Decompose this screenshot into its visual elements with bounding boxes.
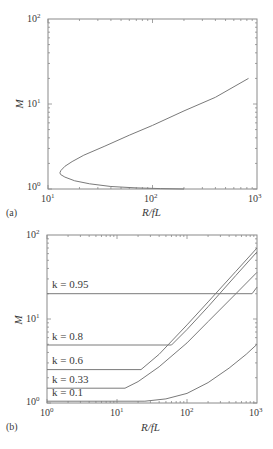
curve-label-k-0.33: k = 0.33: [52, 373, 88, 385]
chart-panel-b: 102 101 100 100 101 102 103 R/fL M (b) k…: [0, 225, 273, 449]
x-tick-label-b-0: 100: [40, 406, 54, 418]
plot-frame: [48, 19, 257, 189]
y-tick-label-a-0: 100: [27, 180, 41, 192]
x-tick-label-a-0: 101: [41, 192, 55, 204]
curve-label-k-0.1: k = 0.1: [52, 386, 83, 398]
x-tick-label-b-1: 101: [110, 406, 124, 418]
curve-label-k-0.8: k = 0.8: [52, 330, 83, 342]
series-line-k-0.6: [47, 248, 257, 370]
panel-tag-b: (b): [6, 421, 18, 432]
x-tick-label-b-2: 102: [180, 406, 194, 418]
curve-label-k-0.95: k = 0.95: [52, 278, 88, 290]
y-tick-label-b-1: 101: [26, 312, 40, 324]
y-tick-label-b-2: 102: [26, 228, 40, 240]
y-axis-label-a: M: [13, 99, 25, 108]
y-tick-label-a-1: 101: [27, 97, 41, 109]
panel-tag-a: (a): [6, 207, 17, 218]
x-tick-label-a-1: 102: [144, 192, 158, 204]
y-tick-label-b-0: 100: [26, 395, 40, 407]
x-tick-label-a-2: 103: [248, 192, 262, 204]
y-tick-label-a-2: 102: [27, 12, 41, 24]
x-axis-label-b: R/fL: [141, 421, 160, 433]
series-line-M-vs-R-fL: [60, 78, 249, 189]
y-axis-label-b: M: [12, 315, 24, 324]
chart-panel-a: 102 101 100 101 102 103 R/fL M (a): [0, 0, 273, 225]
x-axis-label-a: R/fL: [142, 206, 161, 218]
curve-label-k-0.6: k = 0.6: [52, 354, 83, 366]
x-tick-label-b-3: 103: [249, 406, 263, 418]
